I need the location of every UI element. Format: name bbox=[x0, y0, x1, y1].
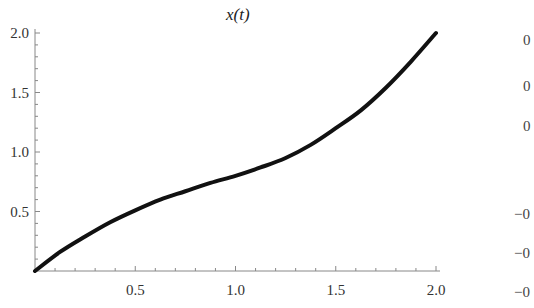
right-chart-tick-label-fragment: 0 bbox=[523, 78, 531, 95]
right-chart-tick-label-fragment: −0 bbox=[514, 206, 530, 223]
x-tick-label: 1.5 bbox=[326, 282, 345, 298]
y-tick-label: 0.5 bbox=[10, 204, 29, 220]
x-tick-label: 2.0 bbox=[427, 282, 446, 298]
x-tick-label: 1.0 bbox=[226, 282, 245, 298]
series-line-x-of-t bbox=[35, 33, 436, 271]
y-tick-label: 1.0 bbox=[10, 144, 29, 160]
axes bbox=[35, 29, 440, 271]
y-tick-label: 1.5 bbox=[10, 85, 29, 101]
right-chart-tick-label-fragment: −0 bbox=[514, 284, 530, 301]
y-tick-label: 2.0 bbox=[10, 25, 29, 41]
right-chart-tick-label-fragment: 0 bbox=[523, 32, 531, 49]
right-chart-tick-label-fragment: −0 bbox=[514, 245, 530, 262]
tick-labels: 0.51.01.52.00.51.01.52.0 bbox=[10, 25, 445, 298]
x-tick-label: 0.5 bbox=[126, 282, 145, 298]
right-chart-tick-label-fragment: 0 bbox=[523, 118, 531, 135]
ticks bbox=[35, 33, 436, 271]
chart-title: x(t) bbox=[225, 5, 250, 24]
x-of-t-plot: 0.51.01.52.00.51.01.52.0 x(t) bbox=[0, 0, 534, 308]
